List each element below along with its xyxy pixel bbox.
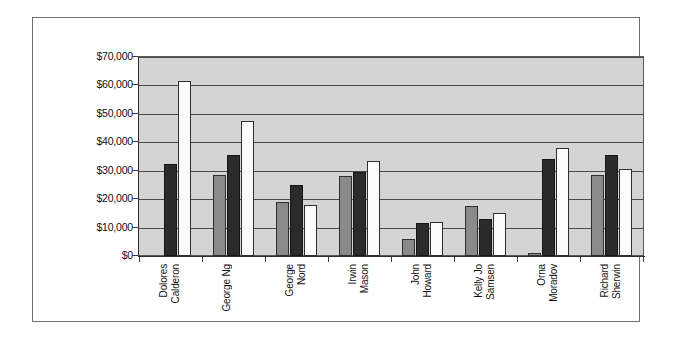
y-tick-mark (132, 255, 139, 256)
bar (178, 81, 191, 256)
bar (241, 121, 254, 256)
x-tick-label: George Ng (220, 264, 250, 344)
bar (402, 239, 415, 256)
bar (556, 148, 569, 256)
x-tick-label-line: Richard (598, 264, 611, 297)
x-tick-label: RichardSherwin (598, 264, 628, 344)
y-tick-label: $10,000 (69, 222, 133, 233)
bar-group (202, 57, 265, 256)
x-tick-mark (328, 257, 329, 262)
y-tick-label: $60,000 (69, 79, 133, 90)
x-tick-label-line: Kelly Jo (472, 264, 485, 298)
x-tick-label-line: Howard (421, 264, 434, 298)
bar-group (517, 57, 580, 256)
bar-group (580, 57, 643, 256)
bar (528, 253, 541, 256)
chart-outer-frame: $70,000$60,000$50,000$40,000$30,000$20,0… (32, 17, 640, 322)
y-tick-label: $40,000 (69, 136, 133, 147)
bar (430, 222, 443, 256)
bar-group (391, 57, 454, 256)
x-tick-label-line: Orna (535, 264, 548, 286)
y-tick-mark (132, 198, 139, 199)
bar (605, 155, 618, 256)
bar (290, 185, 303, 256)
y-axis: $70,000$60,000$50,000$40,000$30,000$20,0… (69, 48, 133, 264)
x-tick-label: OrnaMoradov (535, 264, 565, 344)
y-tick-label: $0 (69, 250, 133, 261)
y-tick-label: $70,000 (69, 51, 133, 62)
x-tick-label-line: Nord (295, 264, 308, 285)
y-tick-mark (132, 141, 139, 142)
bars-layer (139, 57, 643, 256)
x-tick-label: Kelly JoSamsen (472, 264, 502, 344)
y-tick-mark (132, 113, 139, 114)
x-tick-mark (265, 257, 266, 262)
bar (213, 175, 226, 256)
bar-group (328, 57, 391, 256)
x-tick-label-line: Sherwin (610, 264, 623, 299)
x-tick-label-line: Mason (358, 264, 371, 293)
x-tick-label-line: Samsen (484, 264, 497, 300)
bar (367, 161, 380, 256)
x-tick-label-line: John (409, 264, 422, 285)
x-tick-label-line: George Ng (220, 264, 233, 312)
bar (227, 155, 240, 256)
bar (619, 169, 632, 256)
bar (304, 205, 317, 256)
x-tick-label-line: Irwin (346, 264, 359, 284)
x-tick-mark (580, 257, 581, 262)
y-tick-mark (132, 227, 139, 228)
bar-group (454, 57, 517, 256)
x-tick-mark (139, 257, 140, 262)
x-tick-label-line: George (283, 264, 296, 296)
y-tick-mark (132, 56, 139, 57)
bar (493, 213, 506, 256)
x-tick-label-line: Dolores (157, 264, 170, 297)
x-tick-label: GeorgeNord (283, 264, 313, 344)
bar (542, 159, 555, 256)
x-tick-mark (391, 257, 392, 262)
x-tick-mark (517, 257, 518, 262)
x-tick-label: IrwinMason (346, 264, 376, 344)
bar (276, 202, 289, 256)
x-tick-mark (454, 257, 455, 262)
bar-group (139, 57, 202, 256)
y-tick-mark (132, 84, 139, 85)
bar-group (265, 57, 328, 256)
bar (339, 176, 352, 256)
bar (479, 219, 492, 256)
y-tick-label: $30,000 (69, 165, 133, 176)
bar (164, 164, 177, 256)
chart-figure: $70,000$60,000$50,000$40,000$30,000$20,0… (0, 0, 675, 344)
bar (353, 172, 366, 256)
x-tick-label-line: Moradov (547, 264, 560, 302)
bar (416, 223, 429, 256)
bar (591, 175, 604, 256)
y-tick-label: $20,000 (69, 193, 133, 204)
x-tick-mark (202, 257, 203, 262)
bar (465, 206, 478, 256)
x-tick-label-line: Calderon (169, 264, 182, 303)
x-tick-label: DoloresCalderon (157, 264, 187, 344)
x-tick-label: JohnHoward (409, 264, 439, 344)
y-tick-mark (132, 170, 139, 171)
y-tick-label: $50,000 (69, 108, 133, 119)
x-tick-mark (643, 257, 644, 262)
